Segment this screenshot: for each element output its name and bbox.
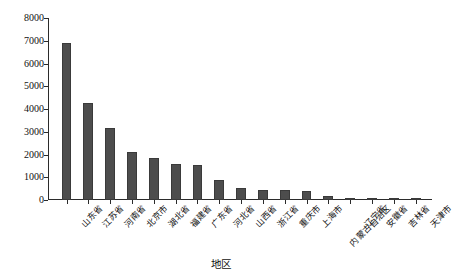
y-axis-tick-label: 2000	[2, 150, 44, 160]
bar	[62, 43, 72, 200]
y-axis-tick-label: 8000	[2, 13, 44, 23]
x-axis-tick-label: 广东省	[209, 203, 235, 229]
bar	[367, 198, 377, 200]
x-axis-tick-label: 湖北省	[166, 203, 192, 229]
bar	[83, 103, 93, 200]
y-axis-tick-label: 5000	[2, 81, 44, 91]
bar	[323, 196, 333, 200]
bar	[171, 164, 181, 200]
y-axis-tick-label: 7000	[2, 36, 44, 46]
bar	[389, 198, 399, 200]
x-axis-tick-label: 山西省	[253, 203, 279, 229]
x-axis-title: 地区	[0, 258, 442, 271]
plot-area	[48, 18, 432, 200]
bar	[214, 180, 224, 200]
y-axis-tick-labels: 800070006000500040003000200010000	[0, 0, 44, 279]
bar	[127, 152, 137, 200]
y-axis-tick-label: 3000	[2, 127, 44, 137]
bar	[105, 128, 115, 200]
bar-series	[48, 18, 432, 200]
y-axis-tick-label: 0	[2, 195, 44, 205]
bar	[193, 165, 203, 200]
x-axis-tick-label: 福建省	[188, 203, 214, 229]
y-axis-tick-label: 6000	[2, 59, 44, 69]
x-axis-tick-label: 河北省	[231, 203, 257, 229]
bar	[258, 190, 268, 200]
bar	[411, 198, 421, 200]
y-axis-tick-label: 4000	[2, 104, 44, 114]
bar	[236, 188, 246, 200]
bar	[149, 158, 159, 200]
x-axis-tick-label: 北京市	[144, 203, 170, 229]
x-axis-tick-label: 天津市	[428, 203, 454, 229]
y-axis-tick-label: 1000	[2, 172, 44, 182]
x-axis-tick-label: 吉林省	[406, 203, 432, 229]
x-axis-tick-label: 重庆市	[297, 203, 323, 229]
x-axis-tick-label: 河南省	[122, 203, 148, 229]
x-axis-tick-label: 上海市	[318, 203, 344, 229]
x-axis-tick-label: 山东省	[78, 203, 104, 229]
bar	[345, 198, 355, 200]
bar	[280, 190, 290, 200]
x-axis-tick-label: 浙江省	[275, 203, 301, 229]
bar	[302, 191, 312, 200]
x-axis-tick-label: 江苏省	[100, 203, 126, 229]
